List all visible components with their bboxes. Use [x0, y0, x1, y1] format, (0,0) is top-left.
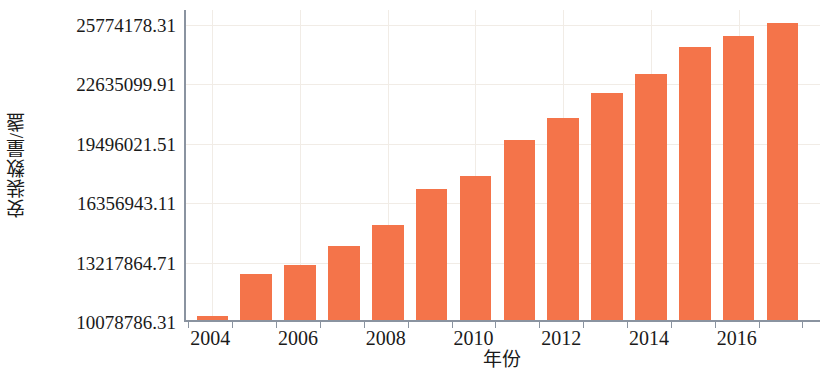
bar[interactable] — [767, 23, 799, 320]
y-axis-tick-label: 22635099.91 — [76, 75, 176, 94]
x-axis-title-text: 年份 — [483, 349, 521, 370]
x-axis-tick-label: 2016 — [717, 326, 757, 350]
bar[interactable] — [240, 274, 272, 320]
bar[interactable] — [197, 316, 229, 320]
bar[interactable] — [328, 246, 360, 320]
bar[interactable] — [679, 47, 711, 320]
y-axis-tick-label: 10078786.31 — [76, 313, 176, 332]
bar[interactable] — [372, 225, 404, 320]
bar[interactable] — [635, 74, 667, 320]
bar[interactable] — [460, 176, 492, 320]
bar[interactable] — [723, 36, 755, 320]
gridline-horizontal — [186, 25, 820, 26]
bar[interactable] — [504, 140, 536, 320]
x-axis-tick-label: 2010 — [453, 326, 493, 350]
x-axis-tick-label: 2012 — [541, 326, 581, 350]
bar-chart-figure: 安装数量/盏 10078786.3113217864.7116356943.11… — [0, 0, 839, 372]
y-axis-tick-label: 13217864.71 — [76, 253, 176, 272]
gridline-vertical — [212, 10, 213, 320]
plot-area — [184, 10, 820, 322]
bar[interactable] — [547, 118, 579, 320]
y-axis-title: 安装数量/盏 — [0, 0, 32, 330]
y-axis-tick-label: 16356943.11 — [77, 194, 176, 213]
x-axis-tick-label: 2008 — [366, 326, 406, 350]
x-axis-tick-label: 2014 — [629, 326, 669, 350]
y-axis-tick-label: 25774178.31 — [76, 15, 176, 34]
bar[interactable] — [284, 265, 316, 320]
y-axis-tick-labels: 10078786.3113217864.7116356943.111949602… — [34, 0, 180, 372]
y-axis-tick-label: 19496021.51 — [76, 134, 176, 153]
bar[interactable] — [591, 93, 623, 320]
y-axis-title-text: 安装数量/盏 — [3, 112, 30, 218]
bar[interactable] — [416, 189, 448, 320]
x-axis-tick-label: 2006 — [278, 326, 318, 350]
x-axis-title: 年份 — [184, 349, 820, 371]
x-axis-tick-label: 2004 — [190, 326, 230, 350]
